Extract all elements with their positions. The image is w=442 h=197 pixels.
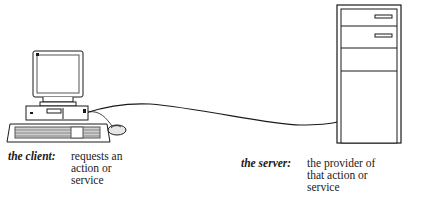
- client-description-line: service: [71, 174, 122, 186]
- server-description-line: the provider of: [307, 157, 375, 169]
- client-description: requests an action or service: [71, 150, 122, 186]
- server-description-line: that action or: [307, 169, 375, 181]
- client-term: the client:: [8, 150, 56, 162]
- tower-server-icon: [337, 5, 401, 143]
- server-term: the server:: [241, 157, 291, 169]
- desktop-computer-icon: [7, 51, 126, 142]
- client-description-line: action or: [71, 162, 122, 174]
- server-description: the provider of that action or service: [307, 157, 375, 193]
- server-description-line: service: [307, 181, 375, 193]
- server-caption: the server: the provider of that action …: [241, 157, 441, 197]
- client-caption: the client: requests an action or servic…: [8, 150, 158, 190]
- network-cable: [85, 104, 337, 125]
- client-description-line: requests an: [71, 150, 122, 162]
